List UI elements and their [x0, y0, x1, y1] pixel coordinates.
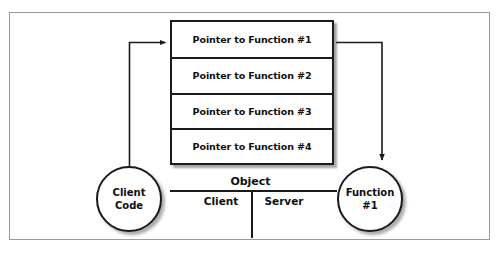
client-side-label: Client	[196, 195, 246, 207]
diagram-canvas: Pointer to Function #1 Pointer to Functi…	[0, 0, 501, 253]
table-row[interactable]: Pointer to Function #3	[172, 93, 332, 128]
client-code-label-line2: Code	[115, 199, 143, 212]
table-row[interactable]: Pointer to Function #4	[172, 128, 332, 163]
client-server-divider-line	[251, 190, 253, 238]
table-row[interactable]: Pointer to Function #2	[172, 57, 332, 92]
function-node[interactable]: Function #1	[337, 166, 403, 232]
object-label: Object	[0, 175, 501, 188]
function-label-line2: #1	[362, 199, 377, 212]
client-code-label-line1: Client	[113, 186, 146, 199]
pointer-table: Pointer to Function #1 Pointer to Functi…	[170, 20, 334, 165]
pointer-row-label: Pointer to Function #1	[193, 34, 312, 45]
pointer-row-label: Pointer to Function #2	[193, 70, 312, 81]
object-boundary-line	[170, 190, 337, 192]
pointer-row-label: Pointer to Function #4	[193, 141, 312, 152]
table-row[interactable]: Pointer to Function #1	[172, 22, 332, 57]
pointer-row-label: Pointer to Function #3	[193, 106, 312, 117]
server-side-label: Server	[258, 195, 310, 207]
function-label-line1: Function	[346, 186, 395, 199]
client-code-node[interactable]: Client Code	[96, 166, 162, 232]
